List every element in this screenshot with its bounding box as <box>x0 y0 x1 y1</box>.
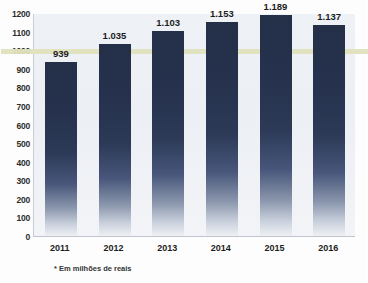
y-axis-tick: 600 <box>0 121 30 131</box>
y-axis-tick: 0 <box>0 232 30 242</box>
y-axis-tick: 500 <box>0 139 30 149</box>
bar-value-label: 1.137 <box>309 11 349 22</box>
x-axis-tick: 2014 <box>201 243 241 253</box>
x-axis: 201120122013201420152016 <box>33 243 355 257</box>
bar-value-label: 1.153 <box>202 8 242 19</box>
bar <box>260 15 292 236</box>
x-axis-tick: 2013 <box>147 243 187 253</box>
bars-layer: 9391.0351.1031.1531.1891.137 <box>34 14 355 236</box>
y-axis-tick: 1100 <box>0 28 30 38</box>
y-axis-tick: 400 <box>0 158 30 168</box>
plot-area: 9391.0351.1031.1531.1891.137 <box>33 14 355 237</box>
chart-footnote: * Em milhões de reais <box>54 264 132 273</box>
bar-group: 1.137 <box>309 13 349 236</box>
y-axis-tick: 800 <box>0 83 30 93</box>
bar-value-label: 939 <box>41 48 81 59</box>
x-axis-tick: 2015 <box>255 243 295 253</box>
x-axis-tick: 2012 <box>94 243 134 253</box>
bar-group: 939 <box>41 13 81 236</box>
bar-value-label: 1.103 <box>148 17 188 28</box>
bar-value-label: 1.035 <box>95 30 135 41</box>
bar <box>206 22 238 236</box>
y-axis-tick: 700 <box>0 102 30 112</box>
y-axis-tick: 900 <box>0 65 30 75</box>
bar <box>152 31 184 236</box>
bar-group: 1.153 <box>202 13 242 236</box>
bar <box>45 62 77 236</box>
bar-group: 1.035 <box>95 13 135 236</box>
bar <box>313 25 345 236</box>
y-axis-tick: 1200 <box>0 9 30 19</box>
bar-value-label: 1.189 <box>256 1 296 12</box>
y-axis-tick: 200 <box>0 195 30 205</box>
x-axis-tick: 2011 <box>40 243 80 253</box>
y-axis-tick: 100 <box>0 213 30 223</box>
x-axis-tick: 2016 <box>308 243 348 253</box>
bar <box>99 44 131 236</box>
bar-group: 1.103 <box>148 13 188 236</box>
bar-group: 1.189 <box>256 13 296 236</box>
y-axis-tick: 300 <box>0 176 30 186</box>
